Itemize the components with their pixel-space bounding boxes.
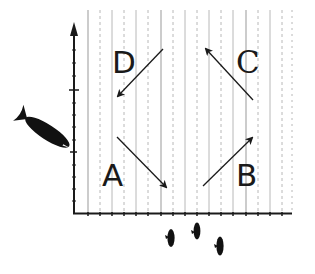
diagram-canvas [0,0,315,274]
small-fish-group [165,223,224,256]
quadrant-label-a: A [102,160,123,191]
y-axis [69,22,79,214]
y-axis-arrow-icon [70,22,78,36]
small-fish-icon-3 [214,237,224,256]
quadrant-label-b: B [236,160,257,191]
quadrant-label-d: D [112,47,136,78]
quadrant-label-c: C [236,47,260,78]
small-fish-icon-2 [191,223,200,240]
large-fish-icon [13,105,75,155]
x-axis [73,212,292,216]
small-fish-icon-1 [165,229,175,247]
